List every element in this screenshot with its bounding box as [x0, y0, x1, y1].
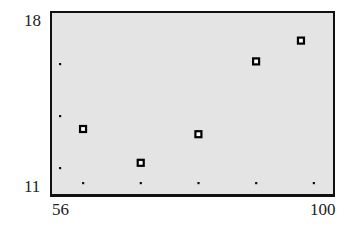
data-point	[138, 160, 144, 166]
x-tick-mark	[313, 182, 315, 184]
y-tick-mark	[59, 63, 61, 65]
y-axis-min-label: 11	[24, 178, 40, 195]
data-point	[298, 38, 304, 44]
data-point	[253, 58, 259, 64]
x-tick-mark	[255, 182, 257, 184]
scatter-plot	[0, 0, 358, 228]
y-tick-mark	[59, 167, 61, 169]
data-point	[195, 131, 201, 137]
x-tick-mark	[82, 182, 84, 184]
x-tick-mark	[140, 182, 142, 184]
y-tick-mark	[59, 115, 61, 117]
data-point	[80, 126, 86, 132]
x-axis-min-label: 56	[52, 201, 69, 218]
y-axis-max-label: 18	[24, 12, 41, 29]
x-tick-mark	[197, 182, 199, 184]
x-axis-max-label: 100	[310, 201, 336, 218]
